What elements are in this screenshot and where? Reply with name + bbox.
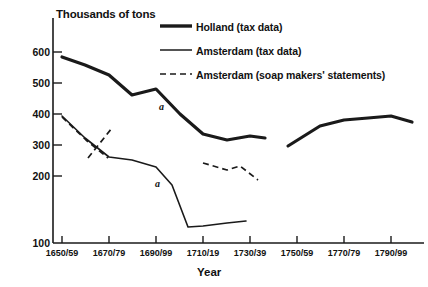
chart-plot-area: [0, 0, 428, 287]
axis-lines: [53, 18, 424, 243]
series-amsterdam-tax: [62, 116, 246, 227]
series-holland-tax: [62, 57, 412, 146]
legend-swatches: [160, 26, 192, 74]
soap-segment-late: [203, 163, 258, 180]
chart-container: Thousands of tons 600 500 400 300 200 10…: [0, 0, 428, 287]
x-axis-ticks: [62, 236, 391, 243]
y-axis-ticks: [53, 52, 62, 176]
